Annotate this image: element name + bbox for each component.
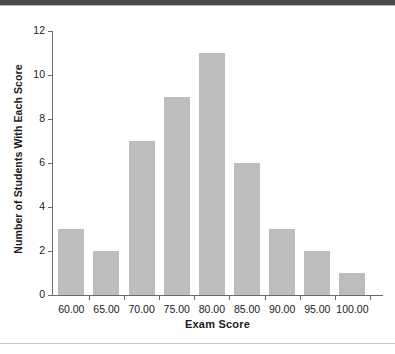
y-tick-label: 2 bbox=[39, 244, 45, 256]
bottom-divider-rule bbox=[0, 343, 395, 344]
histogram-bar bbox=[269, 229, 295, 295]
y-tick-label: 4 bbox=[39, 200, 45, 212]
y-tick-label: 8 bbox=[39, 112, 45, 124]
y-tick-label: 12 bbox=[33, 24, 45, 36]
x-tick-mark bbox=[194, 296, 195, 300]
histogram-bar bbox=[129, 141, 155, 295]
y-axis-title: Number of Students With Each Score bbox=[12, 59, 24, 259]
x-tick-label: 100.00 bbox=[336, 303, 368, 315]
y-tick-mark bbox=[48, 295, 52, 296]
histogram-bar bbox=[199, 53, 225, 295]
x-tick-label: 60.00 bbox=[58, 303, 84, 315]
y-tick-mark bbox=[48, 75, 52, 76]
y-tick-label: 0 bbox=[39, 288, 45, 300]
y-tick-label: 10 bbox=[33, 68, 45, 80]
histogram-bar bbox=[304, 251, 330, 295]
y-axis-line bbox=[52, 31, 53, 296]
x-tick-mark bbox=[335, 296, 336, 300]
y-tick-mark bbox=[48, 119, 52, 120]
x-tick-mark bbox=[159, 296, 160, 300]
y-tick-mark bbox=[48, 163, 52, 164]
x-tick-mark bbox=[124, 296, 125, 300]
histogram-bar bbox=[339, 273, 365, 295]
x-tick-mark bbox=[370, 296, 371, 300]
x-tick-label: 75.00 bbox=[164, 303, 190, 315]
y-tick-mark bbox=[48, 207, 52, 208]
x-axis-line bbox=[52, 295, 383, 296]
x-tick-mark bbox=[229, 296, 230, 300]
y-tick-mark bbox=[48, 31, 52, 32]
x-tick-label: 80.00 bbox=[199, 303, 225, 315]
histogram-figure: Number of Students With Each Score Exam … bbox=[0, 6, 395, 343]
y-tick-mark bbox=[48, 251, 52, 252]
x-tick-label: 90.00 bbox=[269, 303, 295, 315]
x-tick-label: 70.00 bbox=[128, 303, 154, 315]
x-tick-mark bbox=[265, 296, 266, 300]
y-tick-label: 6 bbox=[39, 156, 45, 168]
plot-area: 024681012 60.0065.0070.0075.0080.0085.00… bbox=[52, 31, 383, 296]
histogram-bar bbox=[93, 251, 119, 295]
histogram-bar bbox=[234, 163, 260, 295]
histogram-bar bbox=[164, 97, 190, 295]
x-tick-label: 95.00 bbox=[304, 303, 330, 315]
x-tick-mark bbox=[89, 296, 90, 300]
x-axis-title: Exam Score bbox=[52, 318, 383, 330]
histogram-bar bbox=[58, 229, 84, 295]
x-tick-mark bbox=[300, 296, 301, 300]
x-tick-label: 65.00 bbox=[93, 303, 119, 315]
x-tick-label: 85.00 bbox=[234, 303, 260, 315]
